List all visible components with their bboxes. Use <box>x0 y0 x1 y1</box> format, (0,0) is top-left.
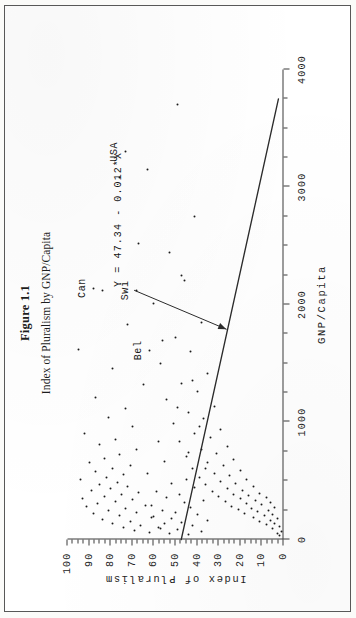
figure-title: Figure 1.1 <box>18 21 33 606</box>
y-tick-label: 20 <box>235 553 246 567</box>
data-point <box>280 530 282 532</box>
data-point <box>261 504 263 506</box>
x-tick-label: 0 <box>297 536 308 543</box>
y-tick <box>169 540 170 544</box>
y-tick <box>185 540 186 544</box>
data-point <box>229 474 231 476</box>
data-point <box>250 507 252 509</box>
x-tick <box>284 392 288 393</box>
y-tick <box>277 540 278 544</box>
data-point <box>272 513 274 515</box>
y-tick-label: 90 <box>84 553 95 567</box>
y-tick <box>266 540 267 544</box>
data-point <box>224 500 226 502</box>
data-point <box>263 514 265 516</box>
y-tick <box>261 540 262 546</box>
y-tick <box>256 540 257 544</box>
scanned-page-frame: Figure 1.1 Index of Pluralism by GNP/Cap… <box>4 5 351 612</box>
data-point <box>244 512 246 514</box>
data-point <box>278 535 280 537</box>
y-tick <box>72 540 73 544</box>
data-point <box>252 486 254 488</box>
x-tick <box>284 127 288 128</box>
x-tick <box>284 509 288 510</box>
y-tick <box>94 540 95 544</box>
data-point <box>265 524 267 526</box>
data-point <box>146 168 148 170</box>
regression-line <box>181 99 278 540</box>
y-tick-label: 0 <box>278 553 289 560</box>
x-tick-label: 2000 <box>297 290 308 319</box>
y-tick <box>202 540 203 544</box>
figure-subtitle: Index of Pluralism by GNP/Capita <box>40 21 52 606</box>
data-point <box>235 482 237 484</box>
regression-equation-label: Y = 47.34 - 0.012*X <box>113 152 124 287</box>
data-point <box>267 510 269 512</box>
data-point <box>265 497 267 499</box>
x-tick <box>284 480 288 481</box>
y-tick <box>283 540 284 546</box>
x-tick-label: 1000 <box>297 408 308 437</box>
x-tick <box>284 421 290 422</box>
y-tick <box>67 540 68 546</box>
y-tick <box>126 540 127 544</box>
y-tick-label: 100 <box>62 553 73 575</box>
x-axis-line <box>283 70 284 540</box>
x-tick <box>284 304 290 305</box>
x-tick <box>284 215 288 216</box>
data-point <box>248 494 250 496</box>
y-tick-label: 10 <box>256 553 267 567</box>
data-point <box>276 532 278 534</box>
y-tick <box>212 540 213 544</box>
y-tick <box>158 540 159 544</box>
data-point <box>257 511 259 513</box>
y-tick <box>131 540 132 546</box>
y-tick <box>115 540 116 544</box>
x-tick-label: 3000 <box>297 173 308 202</box>
data-point <box>272 527 274 529</box>
x-tick <box>284 186 290 187</box>
y-tick <box>137 540 138 544</box>
data-point <box>231 505 233 507</box>
y-tick <box>164 540 165 544</box>
data-point <box>259 492 261 494</box>
data-point <box>270 519 272 521</box>
y-tick <box>153 540 154 546</box>
data-point <box>259 521 261 523</box>
y-tick-label: 70 <box>127 553 138 567</box>
plot-area: 01000200030004000 0102030405060708090100… <box>68 70 284 540</box>
data-point <box>220 428 222 430</box>
x-tick <box>284 157 288 158</box>
y-tick <box>180 540 181 544</box>
x-tick <box>284 362 288 363</box>
y-tick <box>121 540 122 544</box>
data-point <box>222 464 224 466</box>
x-tick <box>284 274 288 275</box>
y-tick <box>99 540 100 544</box>
y-tick <box>148 540 149 544</box>
data-point <box>233 459 235 461</box>
y-tick-label: 60 <box>148 553 159 567</box>
data-point <box>274 522 276 524</box>
data-point <box>220 480 222 482</box>
data-point <box>270 502 272 504</box>
y-tick <box>250 540 251 544</box>
data-point <box>177 104 179 106</box>
y-tick-label: 50 <box>170 553 181 567</box>
data-point <box>194 215 196 217</box>
data-point <box>252 516 254 518</box>
annotation-arrow-line <box>134 290 226 329</box>
data-point <box>239 470 241 472</box>
y-tick <box>196 540 197 546</box>
y-tick-label: 80 <box>105 553 116 567</box>
x-axis-label: GNP/Capita <box>316 70 328 540</box>
data-point <box>274 506 276 508</box>
y-tick-label: 40 <box>192 553 203 567</box>
data-point <box>237 509 239 511</box>
data-point <box>276 517 278 519</box>
y-tick <box>229 540 230 544</box>
data-point <box>246 479 248 481</box>
x-tick <box>284 98 288 99</box>
data-point <box>254 499 256 501</box>
y-axis-label: Index of Pluralism <box>104 573 246 585</box>
